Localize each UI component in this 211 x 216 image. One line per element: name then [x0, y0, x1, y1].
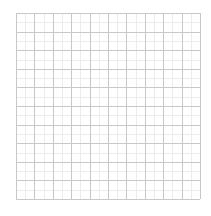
grid-lines [16, 13, 201, 200]
grid-canvas [16, 13, 200, 199]
